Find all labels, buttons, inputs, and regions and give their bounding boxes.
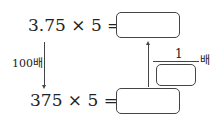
fraction-bar (153, 61, 199, 62)
bottom-answer-box[interactable] (116, 88, 180, 114)
bottom-equation-text: 375 × 5 = (30, 90, 118, 110)
down-arrow-icon (42, 85, 46, 89)
top-answer-box[interactable] (116, 12, 180, 38)
right-arrow-line (148, 45, 149, 87)
left-arrow-label: 100배 (12, 58, 43, 70)
right-arrow-suffix: 배 (200, 55, 210, 67)
up-arrow-icon (146, 41, 150, 45)
fraction-numerator: 1 (175, 48, 183, 60)
fraction-denominator-box[interactable] (156, 64, 196, 86)
top-equation-text: 3.75 × 5 = (28, 15, 121, 35)
left-arrow-line (44, 42, 45, 86)
